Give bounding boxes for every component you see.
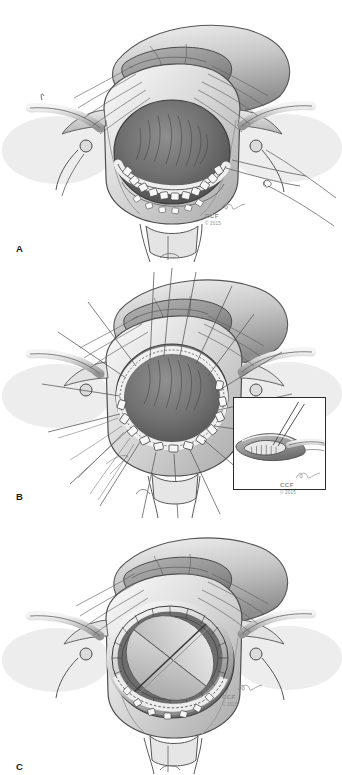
surgical-illustration-figure: Aortotomy opened with stay sutures; dise… bbox=[0, 0, 342, 775]
panel-a: Aortotomy opened with stay sutures; dise… bbox=[0, 0, 342, 268]
signature-mark: CCF bbox=[222, 693, 236, 700]
signature-scribble-icon bbox=[295, 471, 321, 480]
panel-c-artwork bbox=[0, 520, 342, 775]
signature-mark: CCF bbox=[280, 481, 294, 488]
panel-c: Bileaflet mechanical prosthesis seated i… bbox=[0, 520, 342, 775]
signature-scribble-icon bbox=[220, 202, 246, 211]
signature-panel-b-inset: CCF © 2015 bbox=[280, 474, 296, 496]
signature-scribble-icon bbox=[237, 683, 263, 692]
panel-a-artwork bbox=[0, 0, 342, 268]
signature-year: © 2015 bbox=[280, 491, 296, 496]
signature-year: © 2015 bbox=[205, 222, 221, 227]
panel-label-c: C bbox=[16, 762, 23, 772]
signature-panel-c: CCF © 2015 bbox=[222, 686, 238, 708]
panel-label-a: A bbox=[16, 244, 23, 254]
signature-mark: CCF bbox=[205, 212, 219, 219]
signature-panel-a: CCF © 2015 bbox=[205, 205, 221, 227]
panel-label-b: B bbox=[16, 492, 23, 502]
signature-year: © 2015 bbox=[222, 703, 238, 708]
